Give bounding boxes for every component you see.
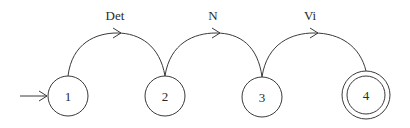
transition-1-2: Det xyxy=(68,8,165,76)
state-label: 1 xyxy=(65,89,72,104)
state-1: 1 xyxy=(48,76,88,116)
fsa-diagram: Det N Vi 1 2 3 4 xyxy=(0,0,410,128)
state-3: 3 xyxy=(242,77,282,117)
transition-arc xyxy=(165,33,262,77)
transition-label: N xyxy=(208,8,218,23)
transition-arc xyxy=(68,33,165,76)
transition-2-3: N xyxy=(165,8,262,77)
transition-label: Vi xyxy=(304,8,317,23)
start-arrow xyxy=(20,91,47,101)
state-4-accepting: 4 xyxy=(342,71,390,119)
state-label: 3 xyxy=(259,90,266,105)
transition-3-4: Vi xyxy=(262,8,366,77)
transition-label: Det xyxy=(106,8,125,23)
state-2: 2 xyxy=(145,76,185,116)
state-label: 4 xyxy=(363,88,370,103)
state-label: 2 xyxy=(162,89,169,104)
transition-arc xyxy=(262,33,366,77)
